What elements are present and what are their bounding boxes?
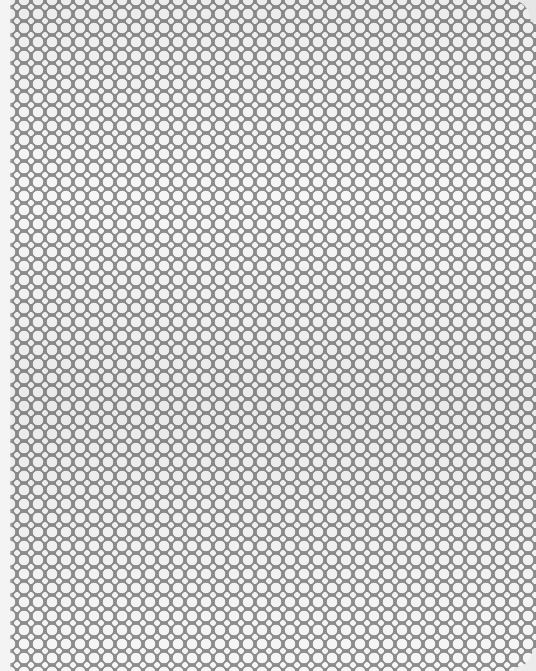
- lighting-shade: [10, 0, 536, 671]
- perforated-metal-sheet: [10, 0, 536, 671]
- rounded-corner-bottom-right: [514, 649, 536, 671]
- sheet-left-edge: [0, 0, 12, 671]
- rounded-corner-top-right: [506, 0, 536, 22]
